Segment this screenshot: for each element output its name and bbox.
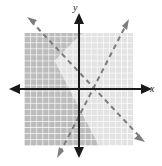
rising-line-arrow-lower-left xyxy=(57,147,64,158)
rising-line-arrow-upper-right xyxy=(122,19,129,30)
y-axis-label: y xyxy=(73,3,77,13)
descending-line-arrow-lower-right xyxy=(134,134,145,142)
y-axis-arrow-up xyxy=(74,13,84,24)
x-axis-arrow-left xyxy=(9,84,20,94)
coordinate-plane-svg xyxy=(0,0,162,166)
graph-figure: x y xyxy=(0,0,162,166)
y-axis-arrow-down xyxy=(74,147,84,158)
x-axis-label: x xyxy=(150,84,154,94)
descending-line-arrow-upper-left xyxy=(27,17,37,25)
